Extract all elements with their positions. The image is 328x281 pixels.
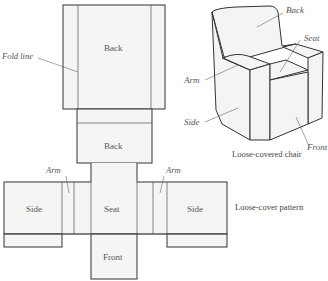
- back-lower-label: Back: [104, 142, 123, 151]
- fold-line-callout: Fold line: [2, 52, 33, 61]
- side-left-label: Side: [26, 205, 42, 214]
- back-upper-label: Back: [104, 44, 123, 53]
- chair-caption: Loose-covered chair: [232, 150, 302, 159]
- chair-seat-callout: Seat: [304, 34, 320, 43]
- pattern-caption: Loose-cover pattern: [235, 203, 303, 212]
- chair-side-callout: Side: [184, 118, 200, 127]
- seat-neck: [91, 163, 137, 183]
- diagram-canvas: Back Back Seat Side Side Front Fold line…: [0, 0, 328, 281]
- chair-back-callout: Back: [286, 6, 304, 15]
- side-right-label: Side: [187, 205, 203, 214]
- chair-outline: [212, 6, 323, 140]
- arm-right-callout: Arm: [166, 166, 181, 175]
- seat-label: Seat: [104, 205, 120, 214]
- back-lower-panel: [77, 109, 152, 163]
- chair-arm-callout: Arm: [184, 76, 200, 85]
- side-left-flap: [4, 234, 62, 247]
- pattern-and-chair-drawing: [0, 0, 328, 281]
- front-label: Front: [103, 253, 123, 262]
- chair-front-callout: Front: [307, 143, 327, 152]
- arm-left-callout: Arm: [46, 166, 61, 175]
- side-right-flap: [167, 234, 227, 247]
